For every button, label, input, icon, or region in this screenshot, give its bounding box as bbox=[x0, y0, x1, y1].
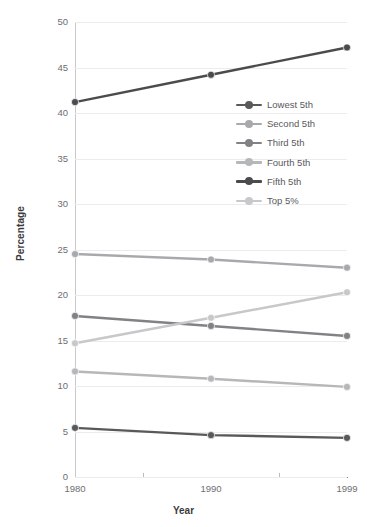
data-point bbox=[207, 256, 214, 263]
y-axis-title: Percentage bbox=[15, 184, 26, 284]
y-axis-tick-label: 50 bbox=[28, 16, 68, 27]
legend-marker-dot bbox=[245, 120, 253, 128]
x-axis-title: Year bbox=[0, 505, 367, 516]
data-point bbox=[207, 432, 214, 439]
data-point bbox=[71, 340, 78, 347]
y-axis-tick-label: 30 bbox=[28, 198, 68, 209]
data-point bbox=[343, 332, 350, 339]
legend-swatch-icon bbox=[236, 118, 262, 130]
y-axis-tick-label: 0 bbox=[28, 471, 68, 482]
legend-swatch-icon bbox=[236, 99, 262, 111]
legend-label: Lowest 5th bbox=[267, 99, 313, 110]
legend-item[interactable]: Lowest 5th bbox=[236, 95, 364, 114]
legend-item[interactable]: Fifth 5th bbox=[236, 172, 364, 191]
plot-area bbox=[75, 22, 347, 477]
x-axis-tick-mark bbox=[279, 473, 280, 477]
x-axis-tick-mark bbox=[143, 473, 144, 477]
legend-label: Third 5th bbox=[267, 137, 305, 148]
y-axis-tick-label: 5 bbox=[28, 426, 68, 437]
legend-item[interactable]: Second 5th bbox=[236, 114, 364, 133]
legend-marker-dot bbox=[245, 139, 253, 147]
series-second-5th bbox=[71, 250, 350, 271]
legend-swatch-icon bbox=[236, 175, 262, 187]
x-axis-tick-label: 1980 bbox=[45, 483, 105, 494]
data-point bbox=[71, 250, 78, 257]
gridline bbox=[75, 477, 347, 478]
data-point bbox=[71, 368, 78, 375]
line-chart: Percentage Year 05101520253035404550 198… bbox=[0, 0, 367, 527]
y-axis-tick-label: 45 bbox=[28, 62, 68, 73]
data-point bbox=[207, 375, 214, 382]
y-axis-tick-label: 20 bbox=[28, 289, 68, 300]
data-point bbox=[207, 322, 214, 329]
legend-marker-dot bbox=[245, 177, 253, 185]
data-point bbox=[207, 314, 214, 321]
data-point bbox=[207, 71, 214, 78]
y-axis-tick-label: 10 bbox=[28, 380, 68, 391]
y-axis-tick-label: 35 bbox=[28, 153, 68, 164]
chart-legend: Lowest 5thSecond 5thThird 5thFourth 5thF… bbox=[236, 95, 364, 210]
series-fourth-5th bbox=[71, 368, 350, 391]
series-lowest-5th bbox=[71, 424, 350, 441]
data-point bbox=[343, 264, 350, 271]
data-point bbox=[343, 383, 350, 390]
legend-swatch-icon bbox=[236, 195, 262, 207]
y-axis-tick-label: 40 bbox=[28, 107, 68, 118]
data-point bbox=[71, 98, 78, 105]
legend-label: Top 5% bbox=[267, 195, 299, 206]
legend-label: Second 5th bbox=[267, 118, 315, 129]
legend-label: Fifth 5th bbox=[267, 176, 301, 187]
legend-marker-dot bbox=[245, 101, 253, 109]
legend-marker-dot bbox=[245, 158, 253, 166]
legend-swatch-icon bbox=[236, 137, 262, 149]
data-point bbox=[343, 289, 350, 296]
data-point bbox=[71, 312, 78, 319]
legend-label: Fourth 5th bbox=[267, 157, 310, 168]
legend-marker-dot bbox=[245, 197, 253, 205]
legend-item[interactable]: Fourth 5th bbox=[236, 153, 364, 172]
data-point bbox=[71, 424, 78, 431]
legend-swatch-icon bbox=[236, 156, 262, 168]
y-axis-tick-label: 25 bbox=[28, 244, 68, 255]
legend-item[interactable]: Top 5% bbox=[236, 191, 364, 210]
x-axis-tick-label: 1999 bbox=[317, 483, 367, 494]
legend-item[interactable]: Third 5th bbox=[236, 133, 364, 152]
series-layer bbox=[75, 22, 347, 477]
data-point bbox=[343, 434, 350, 441]
y-axis-tick-label: 15 bbox=[28, 335, 68, 346]
data-point bbox=[343, 44, 350, 51]
x-axis-tick-label: 1990 bbox=[181, 483, 241, 494]
